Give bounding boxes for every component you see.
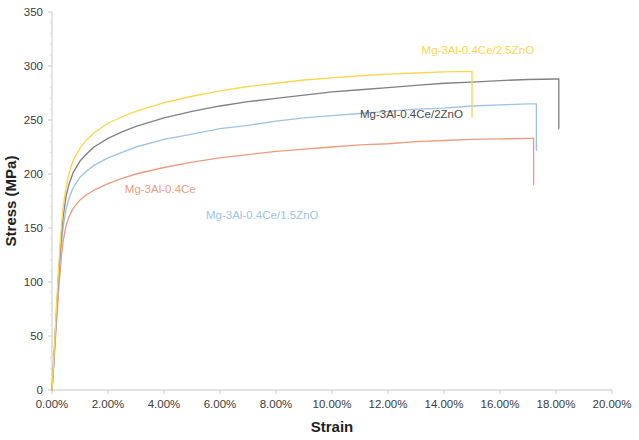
y-tick-label: 200 xyxy=(24,168,43,180)
series-label-0: Mg-3Al-0.4Ce xyxy=(125,183,196,195)
x-tick-label: 14.00% xyxy=(424,398,463,410)
x-axis-group: 0.00%2.00%4.00%6.00%8.00%10.00%12.00%14.… xyxy=(36,390,632,410)
x-tick-label: 20.00% xyxy=(592,398,631,410)
x-tick-label: 4.00% xyxy=(148,398,181,410)
y-tick-label: 150 xyxy=(24,222,43,234)
x-axis-tick-labels: 0.00%2.00%4.00%6.00%8.00%10.00%12.00%14.… xyxy=(36,398,632,410)
series-label-1: Mg-3Al-0.4Ce/1.5ZnO xyxy=(206,209,319,221)
x-tick-label: 0.00% xyxy=(36,398,69,410)
x-axis-ticks xyxy=(52,390,612,394)
x-tick-label: 10.00% xyxy=(312,398,351,410)
y-tick-label: 0 xyxy=(37,384,43,396)
y-axis-title: Stress (MPa) xyxy=(2,156,19,247)
series-curve-1 xyxy=(52,104,536,390)
series-label-2: Mg-3Al-0.4Ce/2ZnO xyxy=(360,108,463,120)
x-tick-label: 2.00% xyxy=(92,398,125,410)
chart-canvas: 050100150200250300350 0.00%2.00%4.00%6.0… xyxy=(0,0,639,440)
x-tick-label: 18.00% xyxy=(536,398,575,410)
x-tick-label: 6.00% xyxy=(204,398,237,410)
series-label-3: Mg-3Al-0.4Ce/2.5ZnO xyxy=(422,44,535,56)
stress-strain-chart-figure: 050100150200250300350 0.00%2.00%4.00%6.0… xyxy=(0,0,639,440)
x-tick-label: 12.00% xyxy=(368,398,407,410)
series-curve-2 xyxy=(52,79,559,390)
series-curves-group xyxy=(52,71,559,390)
y-tick-label: 350 xyxy=(24,6,43,18)
x-tick-label: 8.00% xyxy=(260,398,293,410)
y-tick-label: 300 xyxy=(24,60,43,72)
x-tick-label: 16.00% xyxy=(480,398,519,410)
x-axis-title: Strain xyxy=(311,418,354,435)
y-tick-label: 250 xyxy=(24,114,43,126)
y-axis-tick-labels: 050100150200250300350 xyxy=(24,6,43,396)
y-axis-ticks xyxy=(48,12,52,390)
series-inline-labels-group: Mg-3Al-0.4CeMg-3Al-0.4Ce/1.5ZnOMg-3Al-0.… xyxy=(125,44,534,221)
y-axis-group: 050100150200250300350 xyxy=(24,6,52,396)
series-curve-0 xyxy=(52,138,534,390)
y-tick-label: 50 xyxy=(30,330,43,342)
y-tick-label: 100 xyxy=(24,276,43,288)
